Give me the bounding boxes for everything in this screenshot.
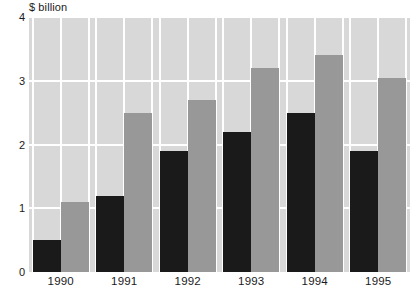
x-axis-tick-label: 1993 (221, 274, 281, 288)
bar-chart: $ billion 01234 199019911992199319941995 (0, 0, 415, 297)
y-axis-tick-label: 0 (1, 267, 25, 278)
plot-area (29, 17, 410, 272)
y-axis-tick-label: 4 (1, 12, 25, 23)
bar (188, 100, 216, 272)
bar (96, 196, 124, 273)
bar (223, 132, 251, 272)
x-axis-tick-label: 1995 (348, 274, 408, 288)
bar (315, 55, 343, 272)
bar (124, 113, 152, 272)
y-axis-tick-labels: 01234 (0, 17, 25, 272)
y-axis-tick-label: 2 (1, 140, 25, 151)
x-axis-tick-labels: 199019911992199319941995 (29, 274, 410, 294)
x-axis-tick-label: 1991 (94, 274, 154, 288)
bar (287, 113, 315, 272)
gridline-horizontal (29, 144, 410, 146)
gridline-vertical (32, 17, 34, 272)
bar (378, 78, 406, 272)
bar (160, 151, 188, 272)
bar (61, 202, 89, 272)
bar (251, 68, 279, 272)
y-axis-tick-label: 3 (1, 76, 25, 87)
x-axis-tick-label: 1992 (158, 274, 218, 288)
x-axis-tick-label: 1994 (285, 274, 345, 288)
y-axis-tick-label: 1 (1, 203, 25, 214)
gridline-horizontal (29, 80, 410, 82)
y-axis-unit-label: $ billion (29, 1, 67, 14)
bar (33, 240, 61, 272)
gridline-horizontal (29, 16, 410, 18)
x-axis-tick-label: 1990 (31, 274, 91, 288)
bar (350, 151, 378, 272)
